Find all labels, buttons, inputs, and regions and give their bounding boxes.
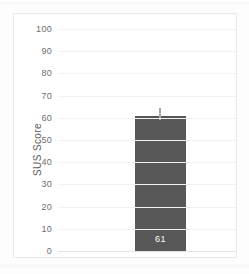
y-axis-tick-label: 100 xyxy=(36,24,52,34)
y-axis-tick-label: 90 xyxy=(41,46,52,56)
gridline xyxy=(58,51,236,52)
scan-artifact-top xyxy=(0,2,249,5)
y-axis-tick-label: 70 xyxy=(41,91,52,101)
gridline xyxy=(58,162,236,163)
gridline xyxy=(58,118,236,119)
plot-area: 61 0102030405060708090100 xyxy=(58,29,236,251)
bar-value-label: 61 xyxy=(135,234,186,244)
gridline xyxy=(58,73,236,74)
y-axis-tick-label: 0 xyxy=(47,246,52,256)
y-axis-title: SUS Score xyxy=(30,27,44,272)
y-axis-tick-label: 40 xyxy=(41,157,52,167)
gridline xyxy=(58,140,236,141)
gridline xyxy=(58,251,236,252)
gridline xyxy=(58,184,236,185)
gridline xyxy=(58,29,236,30)
gridline xyxy=(58,207,236,208)
y-axis-tick-label: 20 xyxy=(41,202,52,212)
y-axis-tick-label: 80 xyxy=(41,68,52,78)
gridline xyxy=(58,96,236,97)
y-axis-tick-label: 50 xyxy=(41,135,52,145)
y-axis-tick-label: 30 xyxy=(41,179,52,189)
chart-container: SUS Score 61 0102030405060708090100 xyxy=(0,0,249,274)
gridline xyxy=(58,229,236,230)
chart-frame: SUS Score 61 0102030405060708090100 xyxy=(13,13,237,258)
y-axis-tick-label: 60 xyxy=(41,113,52,123)
bar-sus-score[interactable]: 61 xyxy=(135,116,186,251)
y-axis-tick-label: 10 xyxy=(41,224,52,234)
